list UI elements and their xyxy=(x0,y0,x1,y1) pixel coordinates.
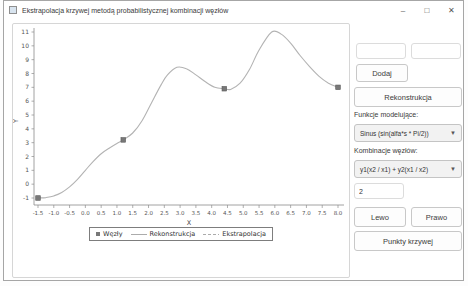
node-marker xyxy=(336,85,341,90)
node-marker xyxy=(222,86,227,91)
y-tick-label: 11 xyxy=(21,28,29,35)
maximize-button[interactable]: □ xyxy=(415,1,439,19)
y-tick-label: 4 xyxy=(25,125,29,132)
chart-legend: Węzły Rekonstrukcja Ekstrapolacja xyxy=(89,227,273,241)
dashed-line-icon xyxy=(203,234,219,235)
x-tick-label: 4.5 xyxy=(223,210,232,216)
y-tick-label: 2 xyxy=(25,153,29,160)
node-marker xyxy=(121,138,126,143)
x-tick-label: -0.5 xyxy=(64,210,75,216)
x-tick-label: 8.0 xyxy=(334,210,343,216)
y-tick-label: 9 xyxy=(25,56,29,63)
legend-item-rekonstrukcja: Rekonstrukcja xyxy=(131,230,196,238)
x-tick-label: 1.0 xyxy=(113,210,122,216)
app-icon xyxy=(9,6,17,14)
x-tick-label: 7.0 xyxy=(302,210,311,216)
x-tick-label: 4.0 xyxy=(207,210,216,216)
minimize-button[interactable]: – xyxy=(391,1,415,19)
x-tick-label: 3.0 xyxy=(176,210,185,216)
count-input[interactable] xyxy=(354,183,404,199)
rekonstrukcja-button[interactable]: Rekonstrukcja xyxy=(354,87,462,107)
prawo-button[interactable]: Prawo xyxy=(411,207,462,227)
chart-panel: -1.5-1.0-0.50.00.51.01.52.02.53.03.54.04… xyxy=(12,23,350,278)
y-tick-label: 6 xyxy=(25,97,29,104)
y-tick-label: 0 xyxy=(25,180,29,187)
legend-label: Ekstrapolacja xyxy=(222,230,266,238)
dropdown-selected-value: Sinus (sin(alfa*s * Pi/2)) xyxy=(360,130,429,137)
dodaj-button[interactable]: Dodaj xyxy=(356,64,408,82)
curve-Rekonstrukcja xyxy=(38,31,338,198)
chevron-down-icon: ▼ xyxy=(450,166,456,172)
title-bar: Ekstrapolacja krzywej metodą probabilist… xyxy=(4,1,463,19)
node-y-input[interactable] xyxy=(411,43,461,59)
chevron-down-icon: ▼ xyxy=(450,130,456,136)
y-tick-label: 7 xyxy=(25,83,29,90)
x-tick-label: 6.5 xyxy=(286,210,295,216)
x-tick-label: 5.5 xyxy=(255,210,264,216)
x-tick-label: 3.5 xyxy=(192,210,201,216)
x-tick-label: 6.0 xyxy=(270,210,279,216)
legend-item-wezly: Węzły xyxy=(96,230,123,238)
node-marker xyxy=(36,196,41,201)
y-tick-label: 1 xyxy=(25,166,29,173)
legend-item-ekstrapolacja: Ekstrapolacja xyxy=(203,230,266,238)
solid-line-icon xyxy=(131,234,147,235)
funkcje-modelujace-label: Funkcje modelujące: xyxy=(354,111,418,118)
screen: Ekstrapolacja krzywej metodą probabilist… xyxy=(0,0,468,286)
kombinacja-wezlow-dropdown[interactable]: y1(x2 / x1) + y2(x1 / x2) ▼ xyxy=(354,160,462,178)
close-button[interactable]: ✕ xyxy=(439,1,463,19)
x-tick-label: -1.0 xyxy=(48,210,59,216)
x-tick-label: 7.5 xyxy=(318,210,327,216)
y-axis-label: Y xyxy=(13,119,20,124)
punkty-krzywej-button[interactable]: Punkty krzywej xyxy=(354,231,462,251)
y-tick-label: 3 xyxy=(25,139,29,146)
x-tick-label: 0.5 xyxy=(97,210,106,216)
funkcja-modelujaca-dropdown[interactable]: Sinus (sin(alfa*s * Pi/2)) ▼ xyxy=(354,124,462,142)
y-tick-label: 8 xyxy=(25,70,29,77)
x-tick-label: -1.5 xyxy=(33,210,44,216)
x-tick-label: 0.0 xyxy=(81,210,90,216)
x-tick-label: 2.0 xyxy=(144,210,153,216)
x-tick-label: 5.0 xyxy=(239,210,248,216)
y-tick-label: 10 xyxy=(21,42,29,49)
dropdown-selected-value: y1(x2 / x1) + y2(x1 / x2) xyxy=(360,166,428,173)
app-window: Ekstrapolacja krzywej metodą probabilist… xyxy=(3,0,464,281)
y-tick-label: -1 xyxy=(23,194,29,201)
kombinacje-wezlow-label: Kombinacje węzłów: xyxy=(354,147,417,154)
square-marker-icon xyxy=(96,232,100,236)
y-tick-label: 5 xyxy=(25,111,29,118)
node-x-input[interactable] xyxy=(356,43,406,59)
x-tick-label: 1.5 xyxy=(128,210,137,216)
lewo-button[interactable]: Lewo xyxy=(354,207,406,227)
x-axis-label: X xyxy=(187,219,192,227)
x-tick-label: 2.5 xyxy=(160,210,169,216)
legend-label: Węzły xyxy=(103,230,123,238)
caption-buttons: – □ ✕ xyxy=(391,1,463,19)
window-title: Ekstrapolacja krzywej metodą probabilist… xyxy=(22,7,228,14)
legend-label: Rekonstrukcja xyxy=(150,230,196,238)
